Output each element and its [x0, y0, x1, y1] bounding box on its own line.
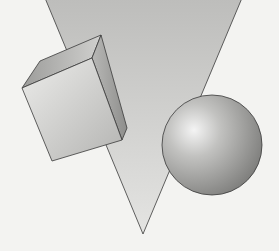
- shapes-illustration: [0, 0, 279, 251]
- illustration-canvas: [0, 0, 279, 251]
- sphere-shape: [162, 95, 262, 195]
